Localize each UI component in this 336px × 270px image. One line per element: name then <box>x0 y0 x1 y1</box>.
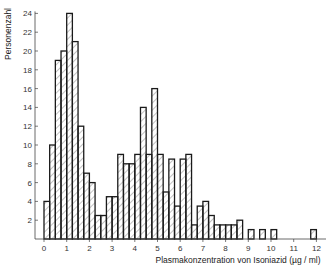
x-tick-label: 1 <box>64 244 69 253</box>
histogram-bar <box>95 216 101 240</box>
histogram-bar <box>158 154 164 239</box>
histogram-bar <box>231 225 237 239</box>
x-tick-label: 11 <box>290 244 299 253</box>
x-tick-label: 5 <box>155 244 160 253</box>
histogram-bar <box>78 126 84 239</box>
y-tick-label: 8 <box>28 160 33 169</box>
histogram-bar <box>175 206 181 239</box>
histogram-bar <box>135 154 141 239</box>
histogram-bar <box>220 225 226 239</box>
x-tick-label: 0 <box>42 244 47 253</box>
histogram-bar <box>44 201 50 239</box>
histogram-bar <box>203 201 209 239</box>
y-tick-label: 10 <box>23 141 32 150</box>
histogram-bar <box>248 230 254 239</box>
histogram-bar <box>112 197 118 239</box>
histogram-chart: 246810121416182022240123456789101112 Per… <box>0 0 336 270</box>
histogram-bar <box>84 173 90 239</box>
x-tick-label: 10 <box>267 244 276 253</box>
y-tick-label: 14 <box>23 103 32 112</box>
histogram-bar <box>61 51 67 239</box>
histogram-bar <box>260 230 266 239</box>
histogram-bar <box>118 154 124 239</box>
x-tick-label: 12 <box>312 244 321 253</box>
y-axis-label: Personenzahl <box>3 8 13 60</box>
histogram-bar <box>226 225 232 239</box>
x-axis-label: Plasmakonzentration von Isoniazid (µg / … <box>155 255 320 265</box>
histogram-bar <box>186 154 192 239</box>
histogram-bar <box>152 89 158 239</box>
histogram-bar <box>50 145 56 239</box>
histogram-bar <box>140 107 146 239</box>
histogram-bar <box>180 159 186 239</box>
x-tick-label: 4 <box>133 244 138 253</box>
x-tick-label: 3 <box>110 244 115 253</box>
y-tick-label: 20 <box>23 47 32 56</box>
histogram-bars <box>44 13 316 239</box>
x-tick-label: 9 <box>246 244 251 253</box>
histogram-bar <box>214 225 220 239</box>
histogram-bar <box>192 225 198 239</box>
y-tick-label: 18 <box>23 66 32 75</box>
histogram-bar <box>311 230 317 239</box>
histogram-bar <box>129 164 135 239</box>
histogram-bar <box>169 159 175 239</box>
histogram-bar <box>209 216 215 240</box>
x-tick-label: 8 <box>223 244 228 253</box>
histogram-bar <box>89 183 95 239</box>
y-tick-label: 4 <box>28 197 33 206</box>
y-tick-label: 12 <box>23 122 32 131</box>
histogram-bar <box>237 220 243 239</box>
histogram-bar <box>163 192 169 239</box>
y-tick-label: 22 <box>23 28 32 37</box>
x-tick-label: 6 <box>178 244 183 253</box>
histogram-bar <box>271 230 277 239</box>
x-tick-label: 2 <box>87 244 92 253</box>
histogram-bar <box>106 197 112 239</box>
y-tick-label: 6 <box>28 179 33 188</box>
histogram-bar <box>101 216 107 240</box>
y-tick-label: 24 <box>23 9 32 18</box>
histogram-bar <box>55 60 61 239</box>
histogram-bar <box>67 13 73 239</box>
histogram-bar <box>72 42 78 239</box>
y-tick-label: 16 <box>23 85 32 94</box>
histogram-bar <box>197 206 203 239</box>
histogram-bar <box>123 164 129 239</box>
x-tick-label: 7 <box>201 244 206 253</box>
y-tick-label: 2 <box>28 216 33 225</box>
histogram-bar <box>146 154 152 239</box>
